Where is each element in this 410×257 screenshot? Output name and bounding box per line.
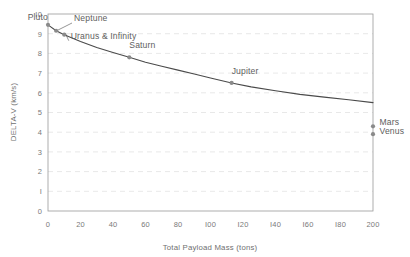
point-label-neptune: Neptune [74,13,108,23]
point-label-jupiter: Jupiter [232,66,259,76]
y-tick-label-8: 8 [38,49,42,58]
y-tick-label-5: 5 [38,108,42,117]
y-tick-label-6: 6 [38,89,42,98]
chart-background [0,0,410,257]
x-tick-label-100: I00 [205,220,216,229]
y-tick-label-2: 2 [38,167,42,176]
x-tick-label-120: I20 [237,220,248,229]
chart-canvas: 0I23456789I0 020406080I00I20I40I60I80200… [0,0,410,257]
point-label-pluto: Pluto [28,12,48,22]
data-point-pluto [46,23,50,27]
x-tick-label-0: 0 [46,220,50,229]
x-tick-label-20: 20 [76,220,85,229]
data-point-saturn [127,55,131,59]
x-axis-title: Total Payload Mass (tons) [163,243,258,252]
y-tick-label-9: 9 [38,30,42,39]
data-point-uranus-infinity [62,33,66,37]
data-point-venus [371,132,375,136]
y-tick-label-3: 3 [38,148,42,157]
x-tick-label-140: I40 [270,220,281,229]
x-tick-label-200: 200 [366,220,379,229]
data-point-mars [371,124,375,128]
delta-v-vs-payload-chart: 0I23456789I0 020406080I00I20I40I60I80200… [0,0,410,257]
x-tick-label-180: I80 [335,220,346,229]
y-tick-label-1: I [40,187,42,196]
data-point-neptune [54,29,58,33]
x-tick-label-80: 80 [174,220,183,229]
x-tick-label-40: 40 [109,220,118,229]
x-tick-label-160: I60 [302,220,313,229]
data-point-jupiter [230,81,234,85]
y-tick-label-7: 7 [38,69,42,78]
point-label-venus: Venus [380,126,405,136]
y-axis-title: DELTA-V (km/s) [9,83,18,142]
x-tick-label-60: 60 [141,220,150,229]
y-tick-label-0: 0 [38,207,42,216]
point-label-saturn: Saturn [129,40,155,50]
y-tick-label-4: 4 [38,128,42,137]
point-label-uranus-infinity: Uranus & Infinity [71,31,137,41]
